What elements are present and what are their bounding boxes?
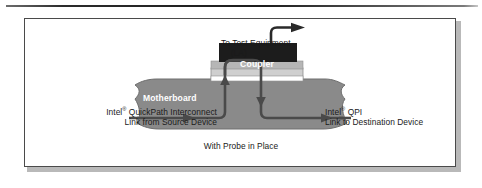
source-link-label: Intel® QuickPath Interconnect Link from … — [35, 107, 217, 128]
intel-wordmark: Intel — [106, 107, 122, 117]
motherboard-label: Motherboard — [143, 93, 197, 103]
test-equipment-line2: (LA) — [221, 48, 291, 58]
figure-frame: Coupler Motherboard To Test Equipment (L… — [24, 18, 456, 167]
destination-link-line1: Intel® QPI — [325, 107, 423, 117]
source-link-line2: Link from Source Device — [35, 117, 217, 127]
destination-link-line2: Link to Destination Device — [325, 117, 423, 127]
coupler-label: Coupler — [226, 59, 288, 69]
source-link-line1-text: QuickPath Interconnect — [129, 107, 217, 117]
destination-link-label: Intel® QPI Link to Destination Device — [325, 107, 423, 128]
figure-caption: With Probe in Place — [25, 141, 456, 151]
source-link-line1: Intel® QuickPath Interconnect — [35, 107, 217, 117]
test-equipment-label: To Test Equipment (LA) — [221, 38, 291, 59]
test-equipment-line1: To Test Equipment — [221, 38, 291, 48]
registered-icon: ® — [122, 106, 126, 112]
intel-wordmark: Intel — [325, 107, 341, 117]
test-equipment-arrowhead — [291, 23, 305, 32]
top-horizontal-rule — [6, 5, 478, 7]
registered-icon: ® — [341, 106, 345, 112]
destination-link-line1-text: QPI — [348, 107, 363, 117]
